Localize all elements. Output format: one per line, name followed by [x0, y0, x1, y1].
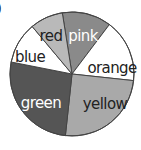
slice-label-green: green	[21, 94, 61, 112]
slice-label-red: red	[40, 27, 63, 45]
slice-label-yellow: yellow	[83, 95, 128, 113]
pie-chart: pinkorangeyellowgreenbluered	[0, 0, 141, 150]
slice-label-orange: orange	[87, 59, 137, 77]
slice-label-pink: pink	[68, 27, 98, 45]
slice-label-blue: blue	[15, 48, 45, 66]
